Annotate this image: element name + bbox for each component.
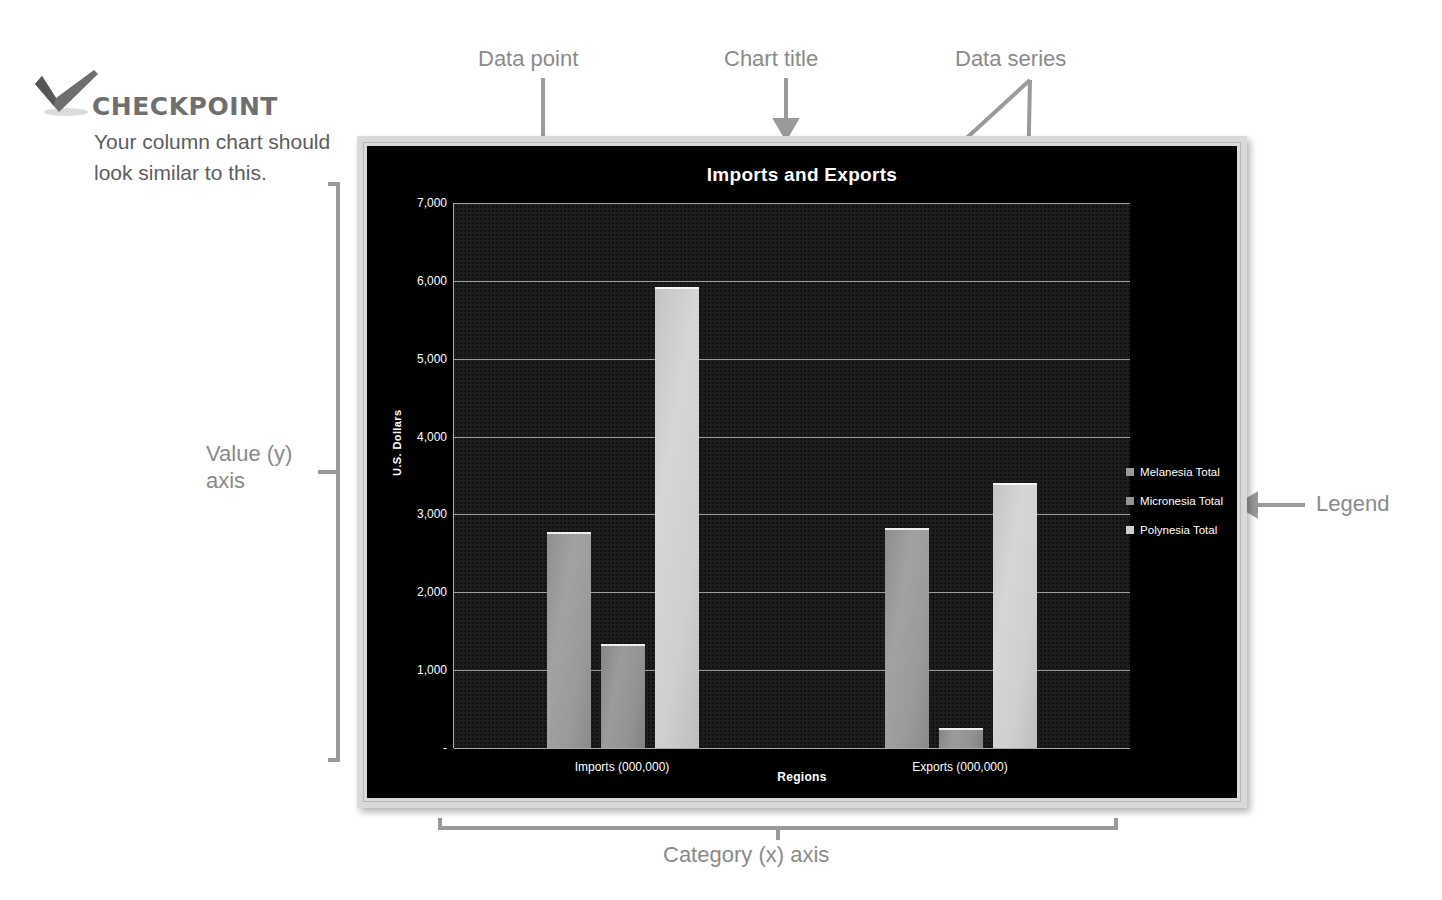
gridline	[454, 748, 1130, 749]
annotation-data-point: Data point	[478, 46, 578, 72]
gridline	[454, 437, 1130, 438]
y-tick-label: 3,000	[417, 507, 447, 521]
y-tick-label: 7,000	[417, 196, 447, 210]
checkpoint-body: Your column chart should look similar to…	[94, 126, 334, 188]
checkpoint-title: CHECKPOINT	[92, 92, 278, 121]
legend-item-label: Melanesia Total	[1140, 466, 1220, 478]
chart-legend[interactable]: Melanesia TotalMicronesia TotalPolynesia…	[1126, 466, 1223, 553]
legend-item[interactable]: Polynesia Total	[1126, 524, 1223, 536]
gridline	[454, 359, 1130, 360]
bar-micronesia-total-exports[interactable]	[939, 728, 983, 748]
x-axis-title: Regions	[367, 770, 1237, 784]
y-tick-label: -	[443, 741, 447, 755]
legend-item-label: Micronesia Total	[1140, 495, 1223, 507]
chart-frame: Imports and Exports U.S. Dollars -1,0002…	[357, 136, 1247, 808]
legend-swatch-icon	[1126, 526, 1134, 534]
bar-melanesia-total-exports[interactable]	[885, 528, 929, 748]
chart-title: Imports and Exports	[367, 164, 1237, 186]
legend-item[interactable]: Micronesia Total	[1126, 495, 1223, 507]
y-tick-label: 2,000	[417, 585, 447, 599]
bracket-value-axis	[328, 184, 338, 760]
bar-polynesia-total-imports[interactable]	[655, 287, 699, 748]
annotation-category-axis: Category (x) axis	[663, 842, 829, 868]
annotation-data-series: Data series	[955, 46, 1066, 72]
legend-item[interactable]: Melanesia Total	[1126, 466, 1223, 478]
gridline	[454, 203, 1130, 204]
bracket-category-axis	[440, 818, 1116, 828]
legend-swatch-icon	[1126, 497, 1134, 505]
chart-inner-border: Imports and Exports U.S. Dollars -1,0002…	[363, 142, 1241, 802]
bar-melanesia-total-imports[interactable]	[547, 532, 591, 748]
bar-polynesia-total-exports[interactable]	[993, 483, 1037, 748]
annotation-legend: Legend	[1316, 491, 1389, 517]
plot-area	[453, 203, 1130, 748]
legend-swatch-icon	[1126, 468, 1134, 476]
x-category-label: Imports (000,000)	[575, 760, 670, 774]
y-tick-label: 5,000	[417, 352, 447, 366]
y-axis-tick-labels: -1,0002,0003,0004,0005,0006,0007,000	[367, 203, 447, 748]
annotation-value-axis: Value (y) axis	[206, 440, 326, 494]
y-tick-label: 6,000	[417, 274, 447, 288]
x-category-label: Exports (000,000)	[912, 760, 1007, 774]
legend-item-label: Polynesia Total	[1140, 524, 1217, 536]
annotation-chart-title: Chart title	[724, 46, 818, 72]
bar-micronesia-total-imports[interactable]	[601, 644, 645, 748]
chart-canvas[interactable]: Imports and Exports U.S. Dollars -1,0002…	[367, 146, 1237, 798]
y-tick-label: 1,000	[417, 663, 447, 677]
gridline	[454, 281, 1130, 282]
y-tick-label: 4,000	[417, 430, 447, 444]
